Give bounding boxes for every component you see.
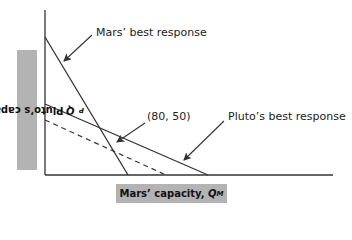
x-axis-sub: M xyxy=(217,190,224,198)
pluto-best-response-label: Pluto’s best response xyxy=(228,110,346,123)
mars-arrow xyxy=(64,35,92,61)
equilibrium-arrow xyxy=(117,123,145,142)
pluto-dashed-line xyxy=(45,120,166,175)
x-axis-label-text: Mars’ capacity, xyxy=(119,188,204,199)
equilibrium-label: (80, 50) xyxy=(147,110,191,123)
x-axis-label: Mars’ capacity, QM xyxy=(116,184,227,203)
x-axis-var: Q xyxy=(208,188,217,199)
y-axis-label: Pluto’s capacity, QP xyxy=(17,50,37,170)
pluto-arrow xyxy=(184,121,224,160)
mars-best-response-label: Mars’ best response xyxy=(96,26,207,39)
y-axis-sub: P xyxy=(0,106,85,114)
